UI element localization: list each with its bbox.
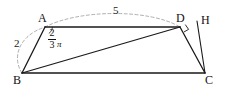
geometry-figure: A B C D H 2 5 2 3 π [0, 0, 225, 92]
segment-bd [22, 27, 180, 73]
length-label-ad: 5 [113, 5, 119, 16]
angle-fraction: 2 3 [48, 28, 56, 50]
vertex-label-h: H [201, 14, 210, 26]
right-angle-marker-d [184, 25, 189, 32]
vertex-label-c: C [205, 74, 213, 86]
segment-ab [22, 27, 45, 73]
pi-symbol: π [57, 40, 62, 50]
angle-numerator: 2 [49, 28, 56, 38]
vertex-label-b: B [13, 74, 21, 86]
angle-denominator: 3 [49, 40, 56, 50]
angle-label-a: 2 3 π [48, 28, 62, 50]
vertex-label-a: A [38, 12, 47, 24]
vertex-label-d: D [176, 12, 185, 24]
length-label-ab: 2 [14, 38, 20, 49]
